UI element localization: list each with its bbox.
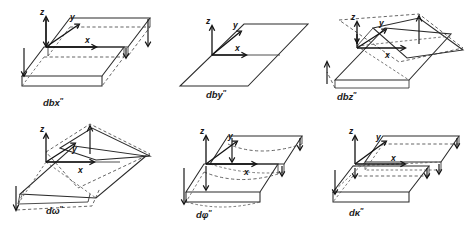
axis-label-x: x bbox=[84, 35, 91, 45]
panel-caption: dφ″ bbox=[196, 209, 213, 220]
panel-dphi: z y x dφ″ bbox=[156, 114, 312, 228]
panel-caption: dby″ bbox=[206, 89, 227, 100]
axis-label-z: z bbox=[39, 7, 45, 17]
axis-label-x: x bbox=[384, 50, 391, 60]
panel-dby: z y x dby″ bbox=[156, 0, 312, 114]
axis-label-z: z bbox=[199, 126, 205, 136]
panel-dkappa: z y x dκ″ bbox=[313, 114, 469, 228]
axis-label-y: y bbox=[378, 18, 385, 28]
axis-label-y: y bbox=[69, 12, 76, 22]
axis-label-y: y bbox=[71, 144, 78, 154]
deformation-modes-figure: z y x dbx″ z y x dby″ bbox=[0, 0, 469, 228]
axis-label-y: y bbox=[232, 20, 239, 30]
axis-label-x: x bbox=[234, 43, 241, 53]
panel-caption: dκ″ bbox=[349, 207, 364, 218]
panel-caption: dbx″ bbox=[43, 97, 64, 108]
axis-label-z: z bbox=[39, 124, 45, 134]
panel-caption: dω″ bbox=[46, 205, 64, 216]
panel-domega: z y x dω″ bbox=[0, 114, 156, 228]
axis-label-z: z bbox=[348, 126, 354, 136]
panel-dbx: z y x dbx″ bbox=[0, 0, 156, 114]
panel-caption: dbz″ bbox=[337, 91, 357, 102]
panel-dbz: z y x dbz″ bbox=[313, 0, 469, 114]
axis-label-x: x bbox=[77, 165, 84, 175]
axis-label-z: z bbox=[350, 12, 356, 22]
axis-label-z: z bbox=[205, 16, 211, 26]
axis-label-y: y bbox=[375, 132, 382, 142]
